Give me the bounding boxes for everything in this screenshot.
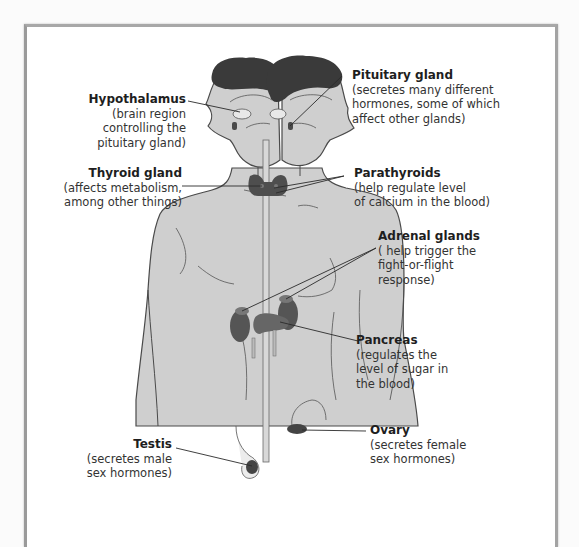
label-hypothalamus: Hypothalamus (brain region controlling t… xyxy=(88,92,186,150)
label-desc: (secretes female sex hormones) xyxy=(370,438,490,467)
label-title: Pancreas xyxy=(356,333,476,348)
ovary xyxy=(287,424,307,434)
label-parathyroids: Parathyroids (help regulate level of cal… xyxy=(354,166,524,210)
label-title: Thyroid gland xyxy=(40,166,182,181)
label-title: Adrenal glands xyxy=(378,229,518,244)
label-adrenal-glands: Adrenal glands ( help trigger the fight-… xyxy=(378,229,518,287)
label-pancreas: Pancreas (regulates the level of sugar i… xyxy=(356,333,476,391)
label-ovary: Ovary (secretes female sex hormones) xyxy=(370,423,490,467)
label-title: Testis xyxy=(62,437,172,452)
label-title: Parathyroids xyxy=(354,166,524,181)
label-desc: ( help trigger the fight-or-flight respo… xyxy=(378,244,518,288)
label-pituitary: Pituitary gland (secretes many different… xyxy=(352,68,522,126)
label-title: Hypothalamus xyxy=(88,92,186,107)
label-testis: Testis (secretes male sex hormones) xyxy=(62,437,172,481)
label-desc: (help regulate level of calcium in the b… xyxy=(354,181,524,210)
label-title: Ovary xyxy=(370,423,490,438)
label-title: Pituitary gland xyxy=(352,68,522,83)
label-desc: (affects metabolism, among other things) xyxy=(40,181,182,210)
label-desc: (brain region controlling the pituitary … xyxy=(88,107,186,151)
testis xyxy=(246,460,258,474)
label-thyroid: Thyroid gland (affects metabolism, among… xyxy=(40,166,182,210)
label-desc: (secretes male sex hormones) xyxy=(62,452,172,481)
label-desc: (secretes many different hormones, some … xyxy=(352,83,522,127)
label-desc: (regulates the level of sugar in the blo… xyxy=(356,348,476,392)
